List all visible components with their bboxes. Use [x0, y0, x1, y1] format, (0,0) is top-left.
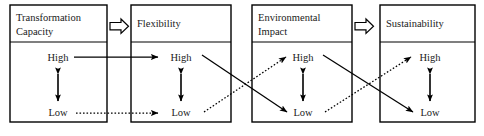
box-title-transformation-capacity-line1: Transformation — [16, 12, 82, 23]
diagram-svg: Transformation Capacity High Low Flexibi… — [0, 0, 484, 136]
box-title-transformation-capacity-line2: Capacity — [16, 26, 54, 37]
box-title-flexibility-line1: Flexibility — [137, 18, 182, 29]
level-low-environmental-impact: Low — [293, 107, 313, 118]
level-high-sustainability: High — [420, 52, 442, 63]
level-high-transformation-capacity: High — [48, 52, 70, 63]
box-title-environmental-impact-line2: Impact — [258, 26, 287, 37]
block-arrow-environmental-to-sustainability — [355, 19, 374, 33]
box-title-sustainability-line1: Sustainability — [386, 18, 445, 29]
level-high-flexibility: High — [171, 52, 193, 63]
box-sustainability[interactable]: Sustainability High Low — [380, 5, 475, 122]
diagram-canvas: Transformation Capacity High Low Flexibi… — [0, 0, 484, 136]
level-low-transformation-capacity: Low — [48, 107, 68, 118]
level-low-sustainability: Low — [420, 107, 440, 118]
block-arrow-transformation-to-flexibility — [110, 19, 129, 33]
box-transformation-capacity[interactable]: Transformation Capacity High Low — [10, 5, 107, 122]
box-title-environmental-impact-line1: Environmental — [258, 12, 320, 23]
level-high-environmental-impact: High — [293, 52, 315, 63]
level-low-flexibility: Low — [171, 107, 191, 118]
